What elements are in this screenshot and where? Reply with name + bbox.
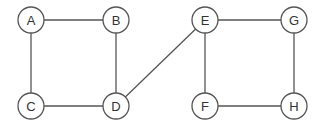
node-b: B bbox=[103, 7, 129, 33]
node-label: B bbox=[112, 13, 121, 28]
node-label: G bbox=[289, 13, 299, 28]
node-label: F bbox=[201, 99, 209, 114]
nodes-layer: ABCDEGFH bbox=[18, 7, 307, 119]
node-label: D bbox=[111, 99, 120, 114]
edges-layer bbox=[31, 20, 294, 106]
node-label: E bbox=[201, 13, 210, 28]
node-f: F bbox=[192, 93, 218, 119]
node-h: H bbox=[281, 93, 307, 119]
edge-d-e bbox=[116, 20, 205, 106]
node-label: C bbox=[26, 99, 35, 114]
node-c: C bbox=[18, 93, 44, 119]
node-g: G bbox=[281, 7, 307, 33]
node-d: D bbox=[103, 93, 129, 119]
node-e: E bbox=[192, 7, 218, 33]
node-label: H bbox=[289, 99, 298, 114]
node-label: A bbox=[27, 13, 36, 28]
graph-diagram: ABCDEGFH bbox=[0, 0, 323, 129]
node-a: A bbox=[18, 7, 44, 33]
